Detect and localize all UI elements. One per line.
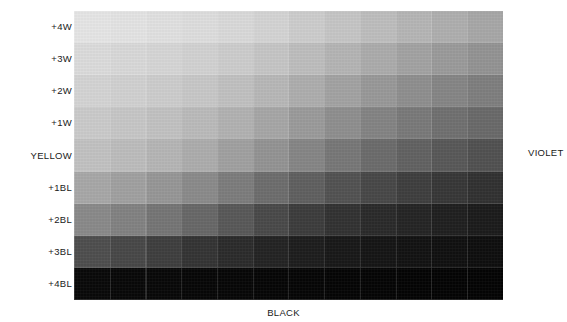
swatch-cell (181, 139, 217, 171)
left-axis-label-plus2bl: +2BL (48, 215, 72, 225)
swatch-cell (146, 172, 182, 204)
swatch-cell (396, 43, 432, 75)
left-axis-label-plus4bl: +4BL (48, 279, 72, 289)
swatch-cell (432, 204, 468, 236)
swatch-cell (360, 11, 396, 43)
swatch-cell (432, 107, 468, 139)
swatch-cell (217, 268, 253, 300)
swatch-cell (289, 204, 325, 236)
left-axis-label-plus1bl: +1BL (48, 183, 72, 193)
left-axis-label-plus4w: +4W (51, 22, 72, 32)
swatch-cell (360, 204, 396, 236)
swatch-cell (74, 268, 110, 300)
swatch-cell (146, 11, 182, 43)
tone-chart: +4W+3W+2W+1WYELLOW+1BL+2BL+3BL+4BL VIOLE… (0, 0, 567, 322)
swatch-cell (467, 172, 503, 204)
swatch-cell (146, 139, 182, 171)
swatch-cell (146, 107, 182, 139)
swatch-cell (146, 43, 182, 75)
swatch-cell (253, 172, 289, 204)
swatch-cell (253, 11, 289, 43)
swatch-cell (146, 236, 182, 268)
left-axis-label-plus3bl: +3BL (48, 247, 72, 257)
swatch-cell (217, 75, 253, 107)
swatch-cell (181, 43, 217, 75)
swatch-cell (289, 43, 325, 75)
swatch-cell (467, 236, 503, 268)
swatch-cell (181, 204, 217, 236)
swatch-cell (181, 75, 217, 107)
swatch-cell (396, 107, 432, 139)
swatch-cell (360, 172, 396, 204)
swatch-cell (253, 75, 289, 107)
swatch-cell (253, 236, 289, 268)
swatch-cell (360, 268, 396, 300)
swatch-cell (253, 268, 289, 300)
swatch-cell (181, 172, 217, 204)
swatch-cell (74, 11, 110, 43)
swatch-cell (324, 204, 360, 236)
swatch-cell (217, 204, 253, 236)
swatch-grid (74, 11, 503, 300)
swatch-cell (110, 75, 146, 107)
swatch-cell (74, 43, 110, 75)
left-axis-label-plus1w: +1W (51, 118, 72, 128)
swatch-cell (467, 268, 503, 300)
swatch-cell (181, 268, 217, 300)
swatch-cell (74, 107, 110, 139)
swatch-cell (217, 11, 253, 43)
swatch-cell (217, 139, 253, 171)
swatch-cell (253, 139, 289, 171)
swatch-cell (146, 204, 182, 236)
swatch-cell (324, 236, 360, 268)
swatch-cell (74, 172, 110, 204)
left-axis-label-plus2w: +2W (51, 86, 72, 96)
swatch-cell (253, 43, 289, 75)
swatch-cell (253, 204, 289, 236)
swatch-cell (324, 107, 360, 139)
swatch-cell (432, 11, 468, 43)
swatch-cell (181, 11, 217, 43)
swatch-cell (110, 172, 146, 204)
swatch-cell (289, 11, 325, 43)
bottom-axis-label-black: BLACK (0, 308, 567, 318)
swatch-cell (146, 75, 182, 107)
swatch-cell (74, 75, 110, 107)
swatch-cell (324, 75, 360, 107)
swatch-cell (432, 43, 468, 75)
swatch-cell (360, 75, 396, 107)
swatch-cell (396, 204, 432, 236)
swatch-cell (467, 139, 503, 171)
swatch-cell (324, 43, 360, 75)
swatch-cell (324, 268, 360, 300)
swatch-cell (360, 107, 396, 139)
swatch-cell (146, 268, 182, 300)
swatch-cell (181, 107, 217, 139)
swatch-cell (396, 172, 432, 204)
swatch-cell (110, 139, 146, 171)
swatch-cell (74, 204, 110, 236)
right-axis-label-violet: VIOLET (528, 148, 564, 158)
swatch-cell (289, 268, 325, 300)
swatch-cell (360, 236, 396, 268)
swatch-cell (396, 268, 432, 300)
swatch-cell (467, 43, 503, 75)
swatch-cell (217, 172, 253, 204)
swatch-cell (289, 139, 325, 171)
swatch-cell (396, 75, 432, 107)
swatch-cell (289, 107, 325, 139)
swatch-cell (110, 11, 146, 43)
swatch-cell (217, 43, 253, 75)
swatch-cell (467, 107, 503, 139)
swatch-cell (396, 139, 432, 171)
swatch-cell (217, 236, 253, 268)
swatch-cell (324, 11, 360, 43)
swatch-cell (289, 236, 325, 268)
swatch-cell (396, 236, 432, 268)
swatch-cell (74, 236, 110, 268)
left-axis-label-plus3w: +3W (51, 54, 72, 64)
swatch-cell (110, 107, 146, 139)
swatch-cell (467, 204, 503, 236)
swatch-cell (110, 236, 146, 268)
swatch-cell (432, 139, 468, 171)
